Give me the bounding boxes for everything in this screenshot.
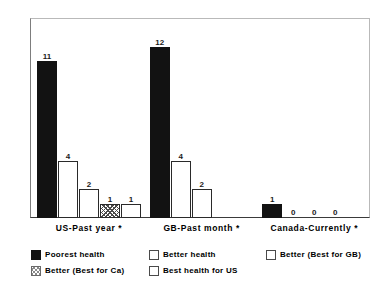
bar-value-label: 12 bbox=[155, 38, 164, 47]
bar: 4 bbox=[171, 161, 191, 218]
bar-value-label: 11 bbox=[43, 52, 51, 61]
legend-label: Best health for US bbox=[163, 266, 238, 276]
legend-swatch-icon bbox=[31, 250, 41, 260]
bar-value-label: 4 bbox=[178, 152, 182, 161]
x-axis-labels: US-Past year *GB-Past month *Canada-Curr… bbox=[31, 222, 369, 236]
legend-swatch-icon bbox=[266, 250, 276, 260]
legend-swatch-icon bbox=[31, 266, 41, 276]
bar: 1 bbox=[100, 204, 120, 218]
bar: 4 bbox=[58, 161, 78, 218]
bar-value-label: 2 bbox=[87, 180, 91, 189]
legend-item[interactable]: Poorest health bbox=[31, 249, 105, 261]
bar: 1 bbox=[121, 204, 141, 218]
x-axis-category-label: Canada-Currently * bbox=[252, 222, 376, 234]
x-axis-category-label: GB-Past month * bbox=[140, 222, 264, 234]
legend-swatch-icon bbox=[149, 266, 159, 276]
legend-item[interactable]: Better (Best for Ca) bbox=[31, 265, 124, 277]
legend-swatch-icon bbox=[149, 250, 159, 260]
y-axis: 02468101214 bbox=[0, 0, 30, 218]
legend-label: Better (Best for GB) bbox=[280, 250, 361, 260]
bar-value-label: 4 bbox=[66, 152, 70, 161]
legend-label: Poorest health bbox=[45, 250, 105, 260]
bar-value-label: 2 bbox=[199, 180, 203, 189]
x-axis-category-label: US-Past year * bbox=[27, 222, 151, 234]
bar-value-label: 1 bbox=[129, 195, 133, 204]
chart-legend: Poorest healthBetter healthBetter (Best … bbox=[31, 249, 383, 283]
bar-value-label: 1 bbox=[270, 195, 274, 204]
bar-value-label: 0 bbox=[325, 208, 345, 217]
bar: 1 bbox=[262, 204, 282, 218]
bar-chart: 02468101214 11421112421000 US-Past year … bbox=[0, 0, 385, 288]
bar: 12 bbox=[150, 47, 170, 218]
legend-label: Better (Best for Ca) bbox=[45, 266, 124, 276]
legend-item[interactable]: Better (Best for GB) bbox=[266, 249, 361, 261]
bars-layer: 11421112421000 bbox=[31, 18, 369, 218]
bar: 2 bbox=[79, 189, 99, 218]
legend-item[interactable]: Better health bbox=[149, 249, 216, 261]
bar-value-label: 1 bbox=[108, 195, 112, 204]
bar: 2 bbox=[192, 189, 212, 218]
bar-value-label: 0 bbox=[304, 208, 324, 217]
bar-value-label: 0 bbox=[283, 208, 303, 217]
bar: 11 bbox=[37, 61, 57, 218]
legend-item[interactable]: Best health for US bbox=[149, 265, 238, 277]
legend-label: Better health bbox=[163, 250, 216, 260]
